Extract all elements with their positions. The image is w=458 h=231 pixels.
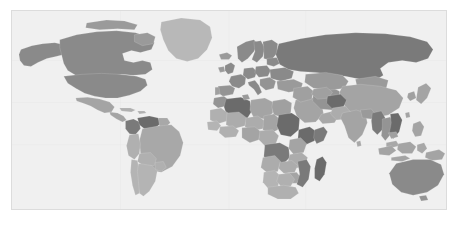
- country-portugal: [215, 87, 220, 95]
- country-sri-lanka: [356, 141, 361, 147]
- country-taiwan: [405, 112, 410, 118]
- world-map-figure: [11, 10, 447, 210]
- world-map-svg: [12, 11, 446, 209]
